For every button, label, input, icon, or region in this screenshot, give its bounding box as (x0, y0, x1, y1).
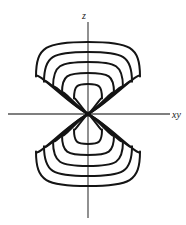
z-axis-label: z (81, 10, 86, 21)
xy-axis-label: xy (171, 109, 181, 120)
orbital-diagram-figure: z xy (0, 0, 186, 225)
orbital-contour-svg: z xy (0, 0, 186, 225)
nodal-point-marker (85, 111, 90, 116)
figure-background (0, 0, 186, 225)
